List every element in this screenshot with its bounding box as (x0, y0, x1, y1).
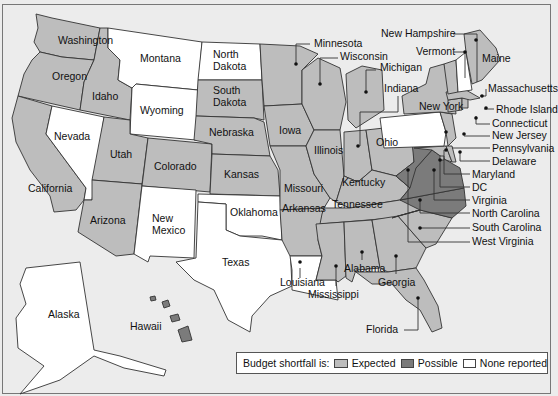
leader-dot-mississippi (334, 264, 338, 268)
label-pennsylvania: Pennsylvania (492, 142, 555, 154)
label-wyoming: Wyoming (140, 104, 184, 116)
label-arizona: Arizona (90, 214, 126, 226)
legend-swatch-none-reported (463, 359, 476, 368)
leader-dot-maryland (444, 148, 448, 152)
label-new-york: New York (419, 100, 464, 112)
leader-dot-new-hampshire (474, 38, 478, 42)
hawaii-island (162, 300, 170, 308)
leader-dot-connecticut (474, 116, 478, 120)
leader-dot-florida (416, 296, 420, 300)
label-idaho: Idaho (92, 90, 118, 102)
label-kansas: Kansas (224, 168, 259, 180)
leader-dot-rhode-island (484, 106, 488, 110)
label-west-virginia: West Virginia (472, 235, 534, 247)
label-north-carolina: North Carolina (472, 207, 540, 219)
label-kentucky: Kentucky (342, 176, 386, 188)
leader-dot-louisiana (298, 260, 302, 264)
label-minnesota: Minnesota (314, 37, 363, 49)
leader-dot-indiana (356, 144, 360, 148)
label-tennessee: Tennessee (332, 198, 383, 210)
label-alabama: Alabama (344, 262, 386, 274)
label-rhode-island: Rhode Island (496, 103, 558, 115)
label-alaska: Alaska (48, 308, 80, 320)
legend-label-possible: Possible (418, 357, 458, 369)
hawaii-island (170, 314, 180, 322)
leader-dot-dc (438, 158, 442, 162)
label-arkansas: Arkansas (282, 202, 326, 214)
legend-title: Budget shortfall is: (243, 357, 329, 369)
state-wisconsin (302, 58, 346, 130)
label-virginia: Virginia (472, 194, 507, 206)
label-michigan: Michigan (380, 61, 422, 73)
leader-dot-michigan (364, 90, 368, 94)
legend-swatch-expected (334, 359, 347, 368)
leader-dot-vermont (463, 50, 467, 54)
legend: Budget shortfall is: Expected Possible N… (236, 352, 548, 374)
state-michigan (346, 66, 384, 128)
label-utah: Utah (110, 148, 132, 160)
leader-dot-massachusetts (480, 94, 484, 98)
label-mississippi: Mississippi (308, 288, 359, 300)
label-maine: Maine (482, 52, 511, 64)
leader-dot-georgia (394, 254, 398, 258)
label-hawaii: Hawaii (130, 320, 162, 332)
label-connecticut: Connecticut (492, 117, 548, 129)
leader-dot-pennsylvania (444, 130, 448, 134)
label-new-jersey: New Jersey (492, 129, 548, 141)
legend-label-expected: Expected (352, 357, 396, 369)
legend-swatch-possible (401, 359, 414, 368)
leader-dot-north-carolina (418, 198, 422, 202)
leader-dot-south-carolina (418, 226, 422, 230)
hawaii-island (150, 296, 156, 301)
legend-label-none-reported: None reported (480, 357, 547, 369)
label-maryland: Maryland (472, 168, 515, 180)
label-colorado: Colorado (154, 160, 197, 172)
label-massachusetts: Massachusetts (488, 82, 558, 94)
label-oregon: Oregon (52, 70, 87, 82)
budget-shortfall-map: WashingtonOregonCaliforniaIdahoNevadaMon… (0, 0, 558, 396)
label-new-hampshire: New Hampshire (381, 27, 456, 39)
label-dc: DC (472, 181, 488, 193)
label-ohio: Ohio (376, 136, 398, 148)
leader-dot-new-jersey (462, 132, 466, 136)
label-washington: Washington (58, 34, 113, 46)
label-south-carolina: South Carolina (472, 221, 542, 233)
label-indiana: Indiana (384, 82, 419, 94)
leader-dot-wisconsin (318, 82, 322, 86)
label-delaware: Delaware (492, 155, 537, 167)
leader-dot-west-virginia (406, 168, 410, 172)
label-oklahoma: Oklahoma (230, 206, 278, 218)
label-missouri: Missouri (284, 182, 323, 194)
label-nevada: Nevada (54, 130, 90, 142)
leader-dot-minnesota (294, 62, 298, 66)
label-iowa: Iowa (279, 124, 301, 136)
us-map: WashingtonOregonCaliforniaIdahoNevadaMon… (0, 0, 558, 396)
label-nebraska: Nebraska (209, 126, 254, 138)
state-hawaii (178, 326, 192, 342)
label-illinois: Illinois (314, 144, 343, 156)
label-georgia: Georgia (378, 276, 416, 288)
label-vermont: Vermont (416, 45, 455, 57)
label-louisiana: Louisiana (280, 276, 325, 288)
label-montana: Montana (140, 52, 181, 64)
label-california: California (28, 182, 73, 194)
label-florida: Florida (366, 323, 398, 335)
leader-line-delaware (460, 152, 490, 161)
leader-dot-delaware (458, 150, 462, 154)
leader-line-connecticut (476, 116, 490, 124)
label-texas: Texas (222, 256, 249, 268)
leader-dot-virginia (432, 168, 436, 172)
leader-dot-alabama (360, 250, 364, 254)
